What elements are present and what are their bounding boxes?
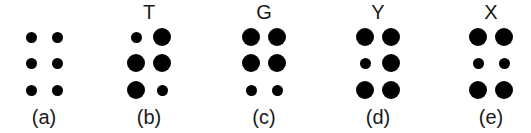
- braille-dot-small-icon: [272, 85, 283, 96]
- braille-dot-big-icon: [153, 54, 171, 72]
- braille-dot-big-icon: [356, 81, 374, 99]
- cell-caption: (d): [348, 104, 408, 130]
- braille-dot-big-icon: [127, 81, 145, 99]
- braille-dot-big-icon: [382, 28, 400, 46]
- braille-dot-small-icon: [52, 85, 63, 96]
- braille-dot-small-icon: [26, 32, 37, 43]
- braille-dot-big-icon: [382, 81, 400, 99]
- braille-dot-big-icon: [242, 54, 260, 72]
- cell-caption: (c): [234, 104, 294, 130]
- cell-caption: (a): [14, 104, 74, 130]
- braille-dot-small-icon: [52, 32, 63, 43]
- braille-dot-small-icon: [499, 58, 510, 69]
- braille-dot-small-icon: [52, 58, 63, 69]
- braille-cell-a: (a): [14, 0, 74, 133]
- braille-dot-big-icon: [495, 81, 513, 99]
- braille-cell-d: Y (d): [348, 0, 408, 133]
- braille-dot-small-icon: [157, 85, 168, 96]
- cell-letter: X: [461, 0, 521, 24]
- cell-letter: T: [119, 0, 179, 24]
- braille-dot-small-icon: [246, 85, 257, 96]
- braille-dot-big-icon: [469, 81, 487, 99]
- braille-dot-small-icon: [26, 85, 37, 96]
- cell-letter: G: [234, 0, 294, 24]
- braille-dot-big-icon: [382, 54, 400, 72]
- cell-caption: (e): [461, 104, 521, 130]
- cell-caption: (b): [119, 104, 179, 130]
- braille-cell-b: T (b): [119, 0, 179, 133]
- braille-dot-big-icon: [242, 28, 260, 46]
- braille-dot-small-icon: [26, 58, 37, 69]
- braille-dot-small-icon: [360, 58, 371, 69]
- braille-dot-big-icon: [268, 28, 286, 46]
- braille-dot-big-icon: [153, 28, 171, 46]
- braille-dot-big-icon: [495, 28, 513, 46]
- braille-dot-small-icon: [131, 32, 142, 43]
- braille-dot-big-icon: [356, 28, 374, 46]
- braille-dot-small-icon: [473, 58, 484, 69]
- braille-dot-big-icon: [469, 28, 487, 46]
- cell-letter: Y: [348, 0, 408, 24]
- braille-dot-big-icon: [268, 54, 286, 72]
- braille-cell-e: X (e): [461, 0, 521, 133]
- braille-cell-c: G (c): [234, 0, 294, 133]
- braille-dot-big-icon: [127, 54, 145, 72]
